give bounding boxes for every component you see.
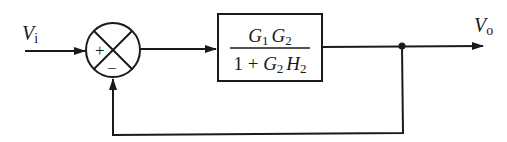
output-label: Vo (474, 14, 493, 38)
block-diagram: Vi + − G1G2 1 + G2H2 Vo (0, 0, 507, 142)
minus-sign: − (107, 59, 117, 78)
input-label: Vi (22, 22, 38, 46)
summing-junction: + − (86, 23, 140, 78)
transfer-function-block: G1G2 1 + G2H2 (218, 14, 322, 81)
denominator: 1 + G2H2 (233, 53, 306, 76)
plus-sign: + (95, 41, 105, 60)
